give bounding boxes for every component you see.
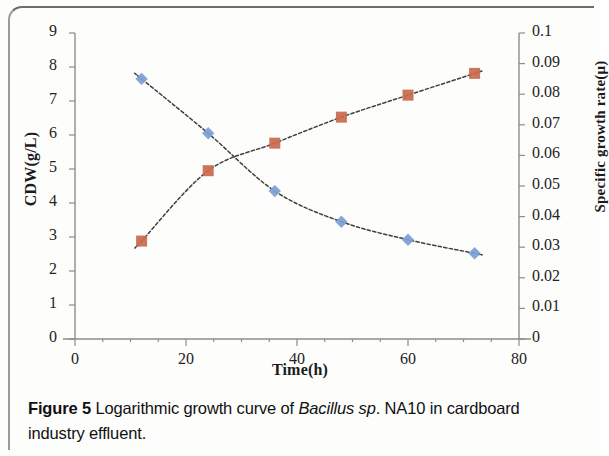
caption-text-part1: Logarithmic growth curve of — [91, 399, 299, 417]
series-trendlines — [135, 71, 482, 255]
series-markers — [135, 68, 480, 260]
right-axis-ticks — [519, 33, 525, 339]
right-tick-label: 0.03 — [532, 236, 592, 254]
right-tick-label: 0.06 — [532, 144, 592, 162]
data-point-cdw — [335, 216, 347, 228]
left-tick-label: 4 — [27, 192, 57, 210]
left-tick-label: 8 — [27, 56, 57, 74]
right-tick-label: 0.08 — [532, 83, 592, 101]
data-point-cdw — [468, 247, 480, 259]
x-tick-label: 40 — [272, 350, 322, 368]
growth-curve-chart — [0, 0, 600, 392]
left-tick-label: 7 — [27, 90, 57, 108]
x-tick-label: 0 — [50, 350, 100, 368]
right-tick-label: 0.07 — [532, 114, 592, 132]
right-tick-label: 0 — [532, 328, 592, 346]
data-point-growth-rate — [403, 90, 414, 101]
right-axis-title: Specific growth rate(μ) — [592, 37, 609, 237]
trendline-series-2 — [135, 71, 482, 248]
right-tick-label: 0.09 — [532, 53, 592, 71]
data-point-growth-rate — [269, 138, 280, 149]
x-axis-ticks — [75, 339, 519, 346]
left-tick-label: 9 — [27, 22, 57, 40]
left-tick-label: 2 — [27, 260, 57, 278]
right-tick-label: 0.1 — [532, 22, 592, 40]
x-tick-label: 20 — [161, 350, 211, 368]
right-tick-label: 0.05 — [532, 175, 592, 193]
trendline-series-1 — [135, 73, 482, 255]
right-tick-label: 0.02 — [532, 267, 592, 285]
data-point-cdw — [269, 185, 281, 197]
figure-caption: Figure 5 Logarithmic growth curve of Bac… — [28, 396, 573, 446]
left-tick-label: 6 — [27, 124, 57, 142]
caption-species-name: Bacillus sp — [298, 399, 375, 417]
data-point-growth-rate — [136, 236, 147, 247]
data-point-growth-rate — [336, 112, 347, 123]
x-tick-label: 80 — [494, 350, 544, 368]
left-tick-label: 1 — [27, 294, 57, 312]
chart-plot-area: CDW(g/L) Specific growth rate(μ) Time(h)… — [0, 0, 600, 392]
right-tick-label: 0.04 — [532, 206, 592, 224]
right-tick-label: 0.01 — [532, 297, 592, 315]
caption-figure-number: Figure 5 — [28, 399, 91, 417]
data-point-growth-rate — [203, 165, 214, 176]
data-point-growth-rate — [469, 68, 480, 79]
left-tick-label: 3 — [27, 226, 57, 244]
left-tick-label: 5 — [27, 158, 57, 176]
data-point-cdw — [402, 234, 414, 246]
left-tick-label: 0 — [27, 328, 57, 346]
left-axis-ticks — [69, 33, 75, 339]
x-tick-label: 60 — [383, 350, 433, 368]
